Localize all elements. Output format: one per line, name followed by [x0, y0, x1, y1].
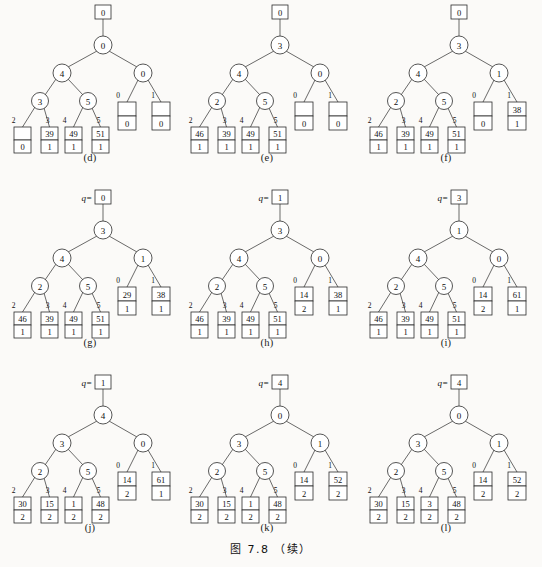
node-right-l[interactable]: 1 [490, 434, 508, 452]
node-left-left-f[interactable]: 2 [388, 93, 405, 110]
node-right-j[interactable]: 0 [134, 434, 152, 452]
node-left-left-l[interactable]: 2 [388, 463, 405, 480]
leaf-box-i-0[interactable]: 461 [370, 312, 387, 338]
node-left-left-g[interactable]: 2 [32, 278, 49, 295]
right-box-g-0[interactable]: 291 [118, 287, 136, 315]
node-root-f[interactable]: 3 [450, 36, 468, 54]
node-left-h[interactable]: 4 [230, 249, 248, 267]
node-left-right-k[interactable]: 5 [257, 463, 274, 480]
node-left-right-g[interactable]: 5 [80, 278, 97, 295]
node-root-h[interactable]: 3 [271, 221, 289, 239]
leaf-box-f-3[interactable]: 511 [448, 127, 465, 153]
leaf-box-h-3[interactable]: 511 [269, 312, 286, 338]
node-left-right-j[interactable]: 5 [80, 463, 97, 480]
leaf-box-h-1[interactable]: 391 [218, 312, 235, 338]
right-box-h-1[interactable]: 381 [329, 287, 347, 315]
right-box-i-0[interactable]: 142 [474, 287, 492, 315]
node-left-left-h[interactable]: 2 [209, 278, 226, 295]
leaf-box-d-0[interactable]: 0 [14, 127, 31, 153]
leaf-box-f-0[interactable]: 461 [370, 127, 387, 153]
root-input-box-i[interactable]: 3 [451, 190, 467, 204]
leaf-box-h-0[interactable]: 461 [191, 312, 208, 338]
node-left-i[interactable]: 4 [409, 249, 427, 267]
leaf-box-j-3[interactable]: 482 [92, 497, 109, 523]
leaf-box-e-2[interactable]: 491 [242, 127, 259, 153]
leaf-box-l-3[interactable]: 482 [448, 497, 465, 523]
root-input-box-f[interactable]: 0 [451, 5, 467, 19]
node-left-left-e[interactable]: 2 [209, 93, 226, 110]
node-left-d[interactable]: 4 [53, 64, 71, 82]
leaf-box-e-3[interactable]: 511 [269, 127, 286, 153]
leaf-box-k-3[interactable]: 482 [269, 497, 286, 523]
leaf-box-j-1[interactable]: 152 [41, 497, 58, 523]
leaf-box-l-1[interactable]: 152 [397, 497, 414, 523]
root-input-box-j[interactable]: 1 [95, 375, 111, 389]
leaf-box-l-2[interactable]: 32 [421, 497, 438, 523]
right-box-g-1[interactable]: 381 [152, 287, 170, 315]
node-left-right-e[interactable]: 5 [257, 93, 274, 110]
leaf-box-g-0[interactable]: 461 [14, 312, 31, 338]
leaf-box-d-3[interactable]: 511 [92, 127, 109, 153]
leaf-box-f-1[interactable]: 391 [397, 127, 414, 153]
right-box-j-0[interactable]: 142 [118, 472, 136, 500]
root-input-box-k[interactable]: 4 [272, 375, 288, 389]
right-box-l-0[interactable]: 142 [474, 472, 492, 500]
node-root-d[interactable]: 0 [94, 36, 112, 54]
leaf-box-e-0[interactable]: 461 [191, 127, 208, 153]
leaf-box-e-1[interactable]: 391 [218, 127, 235, 153]
node-left-j[interactable]: 3 [53, 434, 71, 452]
right-box-l-1[interactable]: 522 [508, 472, 526, 500]
right-box-k-1[interactable]: 522 [329, 472, 347, 500]
node-right-k[interactable]: 1 [311, 434, 329, 452]
leaf-box-d-1[interactable]: 391 [41, 127, 58, 153]
leaf-box-i-3[interactable]: 511 [448, 312, 465, 338]
leaf-box-k-2[interactable]: 12 [242, 497, 259, 523]
right-box-e-0[interactable]: 0 [295, 102, 313, 130]
node-root-l[interactable]: 0 [450, 406, 468, 424]
node-left-left-d[interactable]: 3 [32, 93, 49, 110]
node-right-d[interactable]: 0 [134, 64, 152, 82]
leaf-box-i-2[interactable]: 491 [421, 312, 438, 338]
node-right-g[interactable]: 1 [134, 249, 152, 267]
leaf-box-h-2[interactable]: 491 [242, 312, 259, 338]
leaf-box-j-0[interactable]: 302 [14, 497, 31, 523]
leaf-box-d-2[interactable]: 491 [65, 127, 82, 153]
right-box-e-1[interactable]: 0 [329, 102, 347, 130]
node-right-h[interactable]: 0 [311, 249, 329, 267]
node-root-k[interactable]: 0 [271, 406, 289, 424]
root-input-box-h[interactable]: 1 [272, 190, 288, 204]
leaf-box-j-2[interactable]: 12 [65, 497, 82, 523]
node-left-right-l[interactable]: 5 [436, 463, 453, 480]
right-box-d-0[interactable]: 0 [118, 102, 136, 130]
leaf-box-i-1[interactable]: 391 [397, 312, 414, 338]
root-input-box-l[interactable]: 4 [451, 375, 467, 389]
node-left-right-h[interactable]: 5 [257, 278, 274, 295]
node-left-l[interactable]: 3 [409, 434, 427, 452]
root-input-box-d[interactable]: 0 [95, 5, 111, 19]
right-box-f-1[interactable]: 381 [508, 102, 526, 130]
right-box-k-0[interactable]: 142 [295, 472, 313, 500]
leaf-box-g-2[interactable]: 491 [65, 312, 82, 338]
right-box-i-1[interactable]: 611 [508, 287, 526, 315]
node-left-e[interactable]: 4 [230, 64, 248, 82]
node-left-right-f[interactable]: 5 [436, 93, 453, 110]
node-left-right-d[interactable]: 5 [80, 93, 97, 110]
node-root-j[interactable]: 4 [94, 406, 112, 424]
node-left-k[interactable]: 3 [230, 434, 248, 452]
node-left-f[interactable]: 4 [409, 64, 427, 82]
node-right-f[interactable]: 1 [490, 64, 508, 82]
node-right-i[interactable]: 0 [490, 249, 508, 267]
leaf-box-f-2[interactable]: 491 [421, 127, 438, 153]
right-box-h-0[interactable]: 142 [295, 287, 313, 315]
root-input-box-g[interactable]: 0 [95, 190, 111, 204]
node-left-left-k[interactable]: 2 [209, 463, 226, 480]
right-box-f-0[interactable]: 0 [474, 102, 492, 130]
leaf-box-l-0[interactable]: 302 [370, 497, 387, 523]
node-root-i[interactable]: 1 [450, 221, 468, 239]
root-input-box-e[interactable]: 0 [272, 5, 288, 19]
node-root-e[interactable]: 3 [271, 36, 289, 54]
right-box-d-1[interactable]: 0 [152, 102, 170, 130]
node-left-right-i[interactable]: 5 [436, 278, 453, 295]
node-left-g[interactable]: 4 [53, 249, 71, 267]
leaf-box-k-1[interactable]: 152 [218, 497, 235, 523]
